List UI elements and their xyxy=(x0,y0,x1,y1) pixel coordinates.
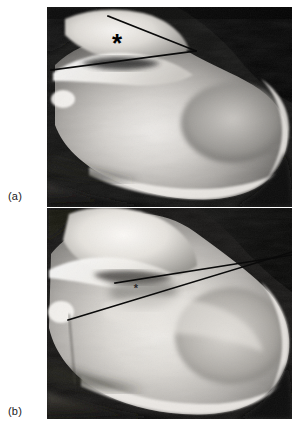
figure-root: * xyxy=(0,0,305,435)
asterisk-marker: * xyxy=(112,28,123,58)
asterisk-marker: * xyxy=(134,282,139,294)
radiograph-panel-b: * xyxy=(47,208,292,419)
panel-b-xray-svg: * xyxy=(47,208,292,419)
panel-a-xray-svg: * xyxy=(47,7,292,207)
panel-label-b: (b) xyxy=(8,406,22,417)
film-grain xyxy=(47,7,292,207)
radiograph-panel-a: * xyxy=(47,7,292,207)
film-grain xyxy=(47,208,292,419)
panel-label-a: (a) xyxy=(8,191,22,202)
